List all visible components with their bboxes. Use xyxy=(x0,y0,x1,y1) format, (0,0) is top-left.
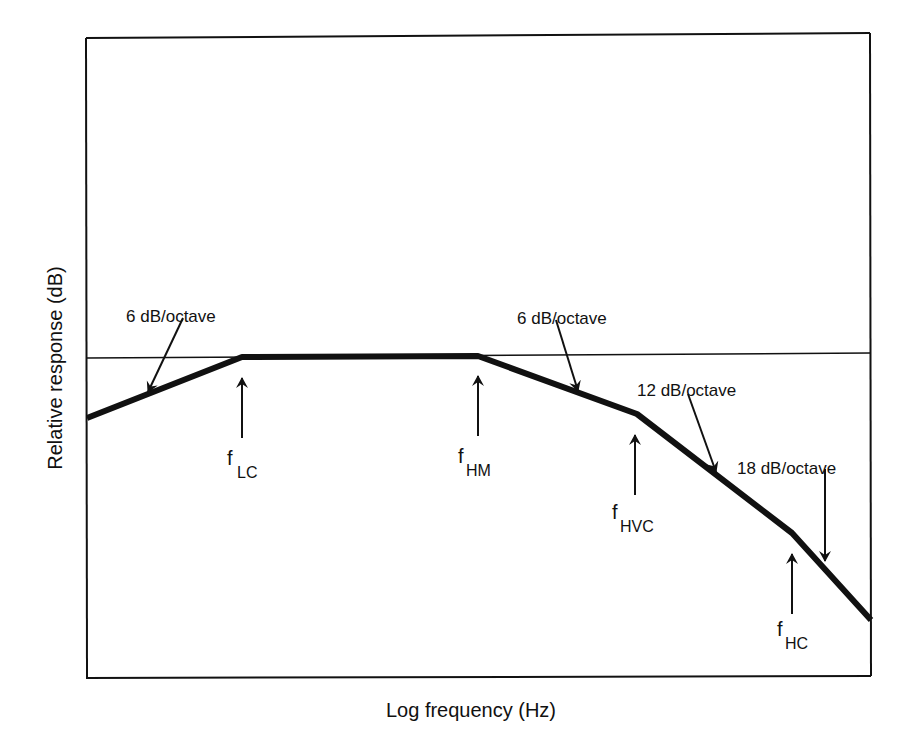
y-axis-label: Relative response (dB) xyxy=(44,266,66,469)
corner-label-hvc-sub: HVC xyxy=(620,518,654,535)
corner-label-lc-sub: LC xyxy=(237,464,257,481)
corner-label-lc-main: f xyxy=(227,447,233,469)
frame-bottom xyxy=(86,676,871,678)
corner-label-hc-sub: HC xyxy=(785,635,808,652)
corner-label-hm-main: f xyxy=(458,445,464,467)
slope-label-mid-high: 6 dB/octave xyxy=(517,309,607,328)
corner-label-hc: f HC xyxy=(777,618,808,652)
slope-label-low: 6 dB/octave xyxy=(126,307,216,326)
corner-label-hvc-main: f xyxy=(612,501,618,523)
frequency-response-diagram: 6 dB/octave 6 dB/octave 12 dB/octave 18 … xyxy=(0,0,914,731)
frame-top xyxy=(86,33,870,38)
slope-label-top: 18 dB/octave xyxy=(737,459,836,478)
corner-label-hm-sub: HM xyxy=(466,462,491,479)
slope-label-high: 12 dB/octave xyxy=(637,381,736,400)
frame-left xyxy=(86,38,87,678)
corner-label-hvc: f HVC xyxy=(612,501,654,535)
corner-label-hc-main: f xyxy=(777,618,783,640)
x-axis-label: Log frequency (Hz) xyxy=(386,699,556,721)
corner-label-lc: f LC xyxy=(227,447,257,481)
frame-right xyxy=(870,33,871,676)
corner-label-hm: f HM xyxy=(458,445,491,479)
